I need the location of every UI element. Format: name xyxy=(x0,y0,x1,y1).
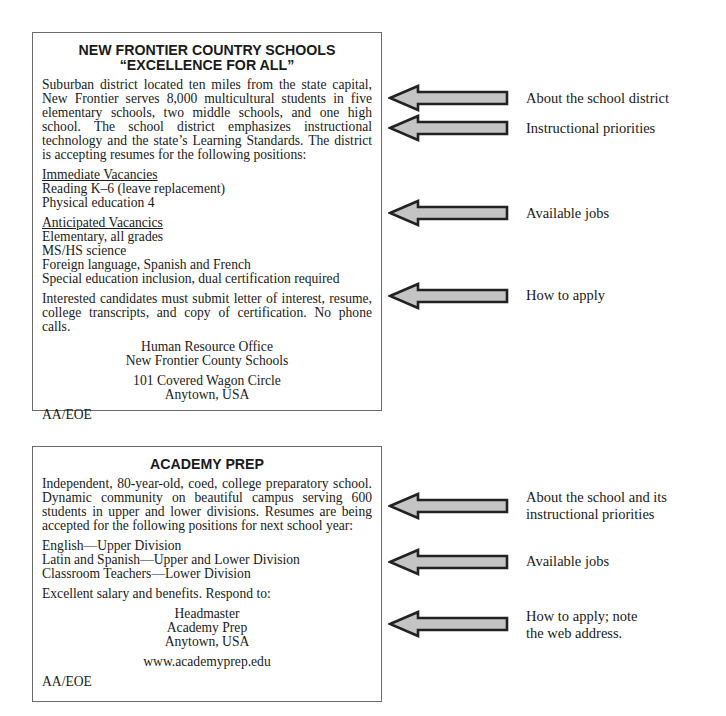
job-item: Physical education 4 xyxy=(42,196,372,210)
office-block: Human Resource Office New Frontier Count… xyxy=(42,340,372,368)
job-item: Reading K–6 (leave replacement) xyxy=(42,182,372,196)
ad-title-line1: NEW FRONTIER COUNTRY SCHOOLS xyxy=(42,43,372,58)
immediate-vacancies: Immediate Vacancies Reading K–6 (leave r… xyxy=(42,168,372,210)
annotation-line: instructional priorities xyxy=(526,506,667,523)
anticipated-vacancies: Anticipated Vacancics Elementary, all gr… xyxy=(42,216,372,286)
job-item: Elementary, all grades xyxy=(42,230,372,244)
job-ad-new-frontier: NEW FRONTIER COUNTRY SCHOOLS “EXCELLENCE… xyxy=(32,32,382,411)
eoe-notice: AA/EOE xyxy=(42,675,372,689)
left-arrow-icon xyxy=(388,114,510,142)
annotation-label: Available jobs xyxy=(526,205,609,222)
address-block: 101 Covered Wagon Circle Anytown, USA xyxy=(42,374,372,402)
benefits: Excellent salary and benefits. Respond t… xyxy=(42,587,372,601)
contact-line: Headmaster xyxy=(42,607,372,621)
eoe-notice: AA/EOE xyxy=(42,408,372,422)
left-arrow-icon xyxy=(388,84,510,112)
job-ad-academy-prep: ACADEMY PREP Independent, 80-year-old, c… xyxy=(32,446,382,702)
left-arrow-icon xyxy=(388,199,510,227)
annotation-label: How to apply; note the web address. xyxy=(526,608,638,642)
website: www.academyprep.edu xyxy=(42,655,372,669)
annotation-line: About the school and its xyxy=(526,489,667,506)
ad-intro: Suburban district located ten miles from… xyxy=(42,78,372,162)
job-item: Classroom Teachers—Lower Division xyxy=(42,567,372,581)
left-arrow-icon xyxy=(388,282,510,310)
annotation-line: Available jobs xyxy=(526,553,609,570)
job-list: English—Upper Division Latin and Spanish… xyxy=(42,539,372,581)
job-item: Special education inclusion, dual certif… xyxy=(42,272,372,286)
address-line: 101 Covered Wagon Circle xyxy=(42,374,372,388)
annotation-label: About the school district xyxy=(526,90,669,107)
section-heading: Anticipated Vacancics xyxy=(42,216,372,230)
office-line: New Frontier County Schools xyxy=(42,354,372,368)
office-line: Human Resource Office xyxy=(42,340,372,354)
ad-intro: Independent, 80-year-old, coed, college … xyxy=(42,477,372,533)
left-arrow-icon xyxy=(388,492,510,520)
section-heading: Immediate Vacancies xyxy=(42,168,372,182)
annotation-label: About the school and its instructional p… xyxy=(526,489,667,523)
annotation-label: How to apply xyxy=(526,287,605,304)
job-item: Foreign language, Spanish and French xyxy=(42,258,372,272)
contact-line: Anytown, USA xyxy=(42,635,372,649)
left-arrow-icon xyxy=(388,548,510,576)
job-item: English—Upper Division xyxy=(42,539,372,553)
left-arrow-icon xyxy=(388,610,510,638)
annotation-label: Instructional priorities xyxy=(526,120,655,137)
annotation-line: How to apply; note xyxy=(526,608,638,625)
job-item: MS/HS science xyxy=(42,244,372,258)
how-to-apply: Interested candidates must submit letter… xyxy=(42,292,372,334)
contact-line: Academy Prep xyxy=(42,621,372,635)
annotation-line: the web address. xyxy=(526,625,638,642)
annotation-label: Available jobs xyxy=(526,553,609,570)
ad-title: NEW FRONTIER COUNTRY SCHOOLS “EXCELLENCE… xyxy=(42,43,372,73)
job-item: Latin and Spanish—Upper and Lower Divisi… xyxy=(42,553,372,567)
ad-title-line2: “EXCELLENCE FOR ALL” xyxy=(42,58,372,73)
address-line: Anytown, USA xyxy=(42,388,372,402)
contact-block: Headmaster Academy Prep Anytown, USA xyxy=(42,607,372,649)
ad-title: ACADEMY PREP xyxy=(42,457,372,472)
